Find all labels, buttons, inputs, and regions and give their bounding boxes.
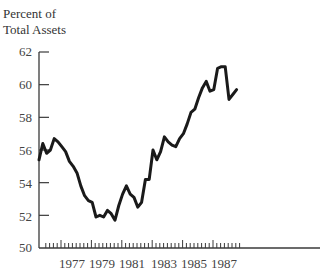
data-line: [39, 67, 237, 221]
plot-area: [0, 0, 334, 278]
axes: [39, 52, 320, 248]
line-chart: Percent of Total Assets 62 60 58 56 54 5…: [0, 0, 334, 278]
